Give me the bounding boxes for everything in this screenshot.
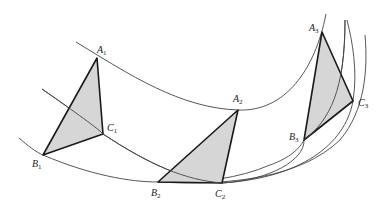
label-a3: A3 <box>308 22 319 35</box>
path-of-a-curve <box>76 14 326 110</box>
label-c2: C2 <box>215 188 226 201</box>
label-b2: B2 <box>151 187 161 200</box>
label-c1: C1 <box>107 122 118 135</box>
label-c3: C3 <box>358 97 369 110</box>
label-a2: A2 <box>232 93 243 106</box>
label-b3: B3 <box>289 131 299 144</box>
triangle-2 <box>158 110 238 183</box>
triangle-3 <box>304 32 353 140</box>
triangle-motion-diagram: A1 C1 B1 A2 B2 C2 A3 C3 B3 <box>0 0 386 211</box>
label-b1: B1 <box>32 158 42 171</box>
triangle-1 <box>43 58 103 155</box>
